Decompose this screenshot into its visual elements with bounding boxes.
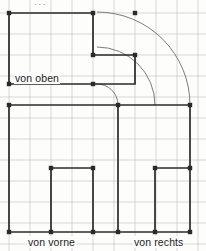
vertex-marker bbox=[91, 11, 95, 15]
vertex-marker bbox=[153, 230, 157, 234]
vertex-marker bbox=[116, 103, 120, 107]
vertex-marker bbox=[7, 82, 11, 86]
vertex-marker bbox=[49, 230, 53, 234]
vertex-marker bbox=[91, 82, 95, 86]
vertex-marker bbox=[91, 166, 95, 170]
vertex-marker bbox=[7, 103, 11, 107]
edge-right-view-step bbox=[155, 168, 190, 232]
vertex-marker bbox=[91, 53, 95, 57]
vertex-marker bbox=[153, 166, 157, 170]
projection-arc-arc-large bbox=[97, 12, 190, 105]
vertex-marker bbox=[49, 166, 53, 170]
vertex-marker bbox=[7, 230, 11, 234]
edge-top-view-outline bbox=[9, 13, 135, 84]
drawing-sheet: ... von obenvon vornevon rechts bbox=[0, 0, 206, 251]
vertex-marker bbox=[91, 230, 95, 234]
vertex-marker bbox=[188, 230, 192, 234]
vertex-marker bbox=[133, 53, 137, 57]
vertex-marker bbox=[7, 11, 11, 15]
vertex-marker bbox=[116, 230, 120, 234]
vertex-marker bbox=[188, 166, 192, 170]
vertex-marker bbox=[188, 103, 192, 107]
projection-drawing bbox=[0, 0, 206, 251]
edge-front-view-mid-step bbox=[51, 168, 93, 232]
projection-arc-arc-small bbox=[96, 84, 118, 105]
vertex-marker bbox=[133, 11, 137, 15]
